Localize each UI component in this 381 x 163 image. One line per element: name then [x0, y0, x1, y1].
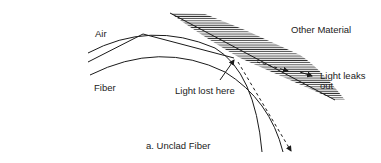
light-leaks-label-line2: out	[320, 80, 333, 91]
other-material-label: Other Material	[291, 24, 351, 35]
figure-caption: a. Unclad Fiber	[146, 140, 210, 151]
air-label: Air	[95, 28, 107, 39]
fiber-inner-boundary	[90, 57, 283, 152]
light-lost-label: Light lost here	[175, 85, 235, 96]
fiber-label: Fiber	[94, 82, 116, 93]
unclad-fiber-diagram: Air Fiber Other Material Light lost here…	[0, 0, 381, 163]
